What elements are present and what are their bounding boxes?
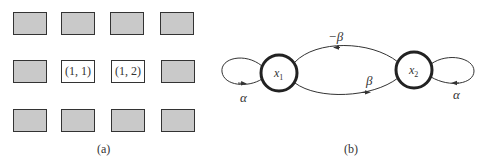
self-loop-x1 — [222, 58, 262, 84]
label-alpha-x2: α — [453, 87, 461, 102]
label-alpha-x1: α — [240, 90, 248, 105]
caption-b: (b) — [344, 142, 358, 156]
edge-x2-x1 — [295, 46, 398, 63]
label-beta: β — [365, 73, 373, 88]
label-neg-beta: −β — [328, 29, 344, 44]
panel-b: x1 x2 α −β β α (b) — [0, 0, 483, 164]
self-loop-x2 — [431, 58, 474, 84]
edge-x1-x2 — [295, 78, 398, 94]
